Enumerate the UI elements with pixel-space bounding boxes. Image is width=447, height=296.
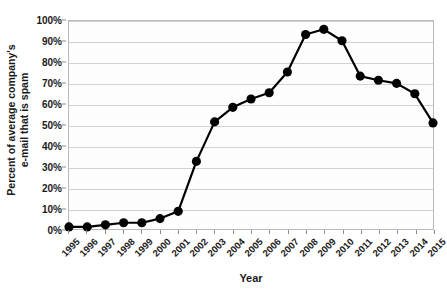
y-tick-label-50: 50% [42, 120, 62, 131]
x-tick-label-text-2003: 2003 [205, 236, 228, 259]
x-tick-mark-1995 [68, 230, 69, 234]
x-tick-mark-1996 [86, 230, 87, 234]
x-tick-mark-2004 [233, 230, 234, 234]
y-tick-label-80: 80% [42, 57, 62, 68]
x-tick-mark-1999 [141, 230, 142, 234]
y-tick-label-60: 60% [42, 99, 62, 110]
y-tick-label-30: 30% [42, 162, 62, 173]
x-tick-label-text-2011: 2011 [352, 236, 374, 258]
data-point-2001 [174, 207, 183, 216]
x-tick-mark-2007 [288, 230, 289, 234]
x-tick-label-text-1996: 1996 [77, 236, 100, 259]
data-point-2004 [228, 103, 237, 112]
x-tick-label-text-2009: 2009 [315, 236, 338, 259]
x-tick-label-text-1997: 1997 [96, 236, 119, 259]
y-axis-title-line-1: Percent of average company's [5, 44, 18, 195]
x-tick-label-text-2007: 2007 [279, 236, 302, 259]
data-point-2006 [265, 88, 274, 97]
data-point-2013 [392, 79, 401, 88]
data-point-2009 [319, 25, 328, 34]
data-point-2002 [192, 157, 201, 166]
y-tick-mark-10 [62, 209, 66, 210]
x-tick-label-text-2014: 2014 [407, 236, 430, 259]
x-axis-title: Year [68, 272, 434, 284]
x-tick-label-text-2004: 2004 [224, 236, 247, 259]
spam-percentage-line-chart: Percent of average company's e-mail that… [0, 0, 447, 296]
y-tick-label-70: 70% [42, 78, 62, 89]
x-tick-mark-2009 [324, 230, 325, 234]
y-tick-mark-90 [62, 41, 66, 42]
x-tick-mark-1997 [105, 230, 106, 234]
x-tick-label-text-2002: 2002 [187, 236, 210, 259]
y-tick-mark-40 [62, 146, 66, 147]
y-tick-mark-100 [62, 20, 66, 21]
x-tick-label-text-2013: 2013 [388, 236, 411, 259]
x-tick-mark-2014 [416, 230, 417, 234]
x-tick-label-text-2012: 2012 [370, 236, 393, 259]
y-tick-mark-50 [62, 125, 66, 126]
x-tick-mark-2005 [251, 230, 252, 234]
y-tick-label-0: 0% [48, 225, 62, 236]
data-point-2007 [283, 67, 292, 76]
y-tick-label-20: 20% [42, 183, 62, 194]
plot-area [68, 20, 434, 230]
x-tick-label-text-1999: 1999 [132, 236, 155, 259]
data-point-1997 [101, 220, 110, 229]
y-tick-mark-30 [62, 167, 66, 168]
x-tick-mark-2010 [343, 230, 344, 234]
x-tick-label-text-2010: 2010 [334, 236, 357, 259]
y-tick-mark-60 [62, 104, 66, 105]
x-tick-label-text-2001: 2001 [169, 236, 192, 259]
series-line-spam-percent [69, 29, 433, 227]
data-point-1998 [119, 218, 128, 227]
data-point-2012 [374, 76, 383, 85]
data-point-2014 [410, 89, 419, 98]
x-tick-mark-2001 [178, 230, 179, 234]
data-point-2011 [356, 72, 365, 81]
x-tick-mark-2011 [361, 230, 362, 234]
data-point-2003 [210, 117, 219, 126]
x-axis-ticks: 1995199619971998199920002001200220032004… [68, 230, 434, 276]
x-tick-mark-2002 [196, 230, 197, 234]
x-tick-mark-2015 [434, 230, 435, 234]
x-tick-label-text-1998: 1998 [114, 236, 137, 259]
y-tick-mark-70 [62, 83, 66, 84]
x-tick-mark-2003 [214, 230, 215, 234]
x-tick-mark-2000 [160, 230, 161, 234]
y-tick-label-10: 10% [42, 204, 62, 215]
x-tick-mark-2012 [379, 230, 380, 234]
x-tick-mark-2006 [269, 230, 270, 234]
data-point-2015 [428, 118, 437, 127]
y-tick-label-100: 100% [36, 15, 62, 26]
y-tick-mark-80 [62, 62, 66, 63]
y-tick-label-90: 90% [42, 36, 62, 47]
data-point-2000 [155, 214, 164, 223]
y-tick-label-40: 40% [42, 141, 62, 152]
data-point-2005 [246, 94, 255, 103]
x-tick-mark-2013 [397, 230, 398, 234]
x-tick-label-text-2008: 2008 [297, 236, 320, 259]
x-tick-mark-1998 [123, 230, 124, 234]
x-tick-mark-2008 [306, 230, 307, 234]
data-point-2010 [337, 36, 346, 45]
x-tick-label-text-2005: 2005 [242, 236, 265, 259]
data-series-svg [69, 21, 433, 229]
y-tick-mark-20 [62, 188, 66, 189]
x-tick-label-text-2006: 2006 [260, 236, 283, 259]
x-tick-label-text-2000: 2000 [151, 236, 174, 259]
data-point-1999 [137, 218, 146, 227]
x-tick-label-text-2015: 2015 [425, 236, 447, 259]
data-point-2008 [301, 30, 310, 39]
